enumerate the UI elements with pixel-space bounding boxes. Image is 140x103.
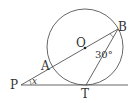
label-p: P <box>10 78 18 92</box>
label-t: T <box>81 87 89 101</box>
angle-label-30: 30° <box>95 49 113 60</box>
label-a: A <box>40 59 50 73</box>
geometry-diagram: P A O B T 30° x <box>0 0 140 103</box>
angle-arc-b <box>110 34 114 37</box>
label-o: O <box>76 36 86 50</box>
angle-arc-p <box>30 80 31 85</box>
label-b: B <box>118 20 127 34</box>
angle-label-x: x <box>32 76 37 86</box>
